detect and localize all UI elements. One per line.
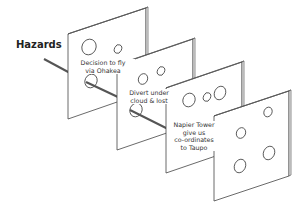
swiss-cheese-diagram bbox=[0, 0, 307, 209]
slice-2-label: Divert under cloud & lost bbox=[120, 89, 178, 104]
label-line: via Ohakea bbox=[72, 67, 134, 75]
slice-1-label: Decision to fly via Ohakea bbox=[71, 59, 135, 74]
hazard-arrow-segment bbox=[44, 59, 70, 73]
label-line: Decision to fly bbox=[72, 59, 134, 67]
label-line: give us bbox=[168, 129, 220, 137]
hazards-title: Hazards bbox=[16, 39, 62, 50]
label-line: Divert under bbox=[121, 89, 177, 97]
slice-3-label: Napier Tower give us co-ordinates to Tau… bbox=[167, 121, 221, 151]
label-line: to Taupo bbox=[168, 144, 220, 152]
label-line: Napier Tower bbox=[168, 121, 220, 129]
label-line: co-ordinates bbox=[168, 136, 220, 144]
label-line: cloud & lost bbox=[121, 97, 177, 105]
